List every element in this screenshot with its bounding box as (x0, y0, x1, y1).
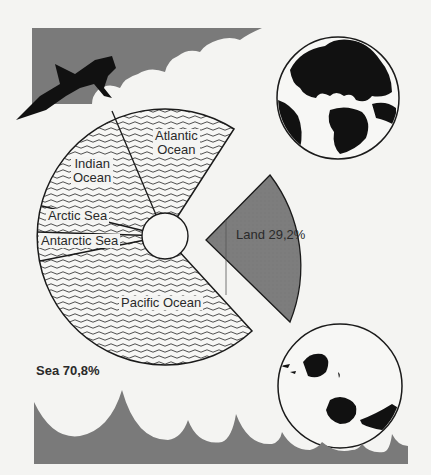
label-indian-line2: Ocean (73, 171, 111, 185)
globe-southern-icon (278, 324, 402, 448)
label-arctic-sea: Arctic Sea (46, 209, 109, 223)
label-pacific-ocean: Pacific Ocean (119, 296, 203, 310)
pie-center-hole (142, 213, 188, 259)
label-atlantic-ocean: Atlantic Ocean (153, 129, 200, 157)
label-land-percent: Land 29,2% (236, 228, 305, 242)
label-indian-line1: Indian (73, 157, 111, 171)
label-atlantic-line1: Atlantic (155, 129, 198, 143)
label-atlantic-line2: Ocean (155, 143, 198, 157)
globe-northern-icon (277, 37, 399, 159)
label-antarctic-sea: Antarctic Sea (39, 234, 120, 248)
label-indian-ocean: Indian Ocean (71, 157, 113, 185)
label-sea-percent: Sea 70,8% (36, 364, 100, 378)
